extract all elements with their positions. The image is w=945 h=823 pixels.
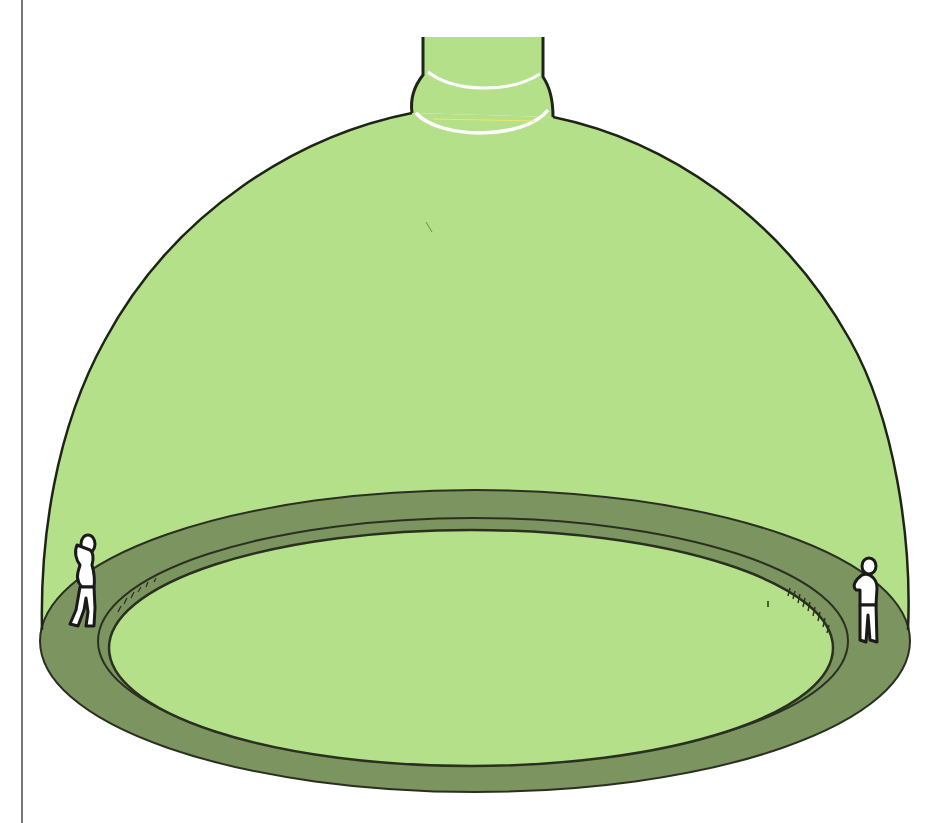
dome-illustration xyxy=(0,0,945,823)
inner-floor xyxy=(109,530,833,766)
